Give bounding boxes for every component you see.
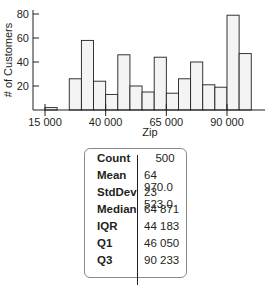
x-tick-label: 40 000: [89, 116, 123, 128]
x-tick-label: 90 000: [210, 116, 244, 128]
y-axis-ticks: 20406080: [17, 8, 39, 92]
histogram-bars: [45, 15, 251, 110]
stat-label: Q3: [97, 254, 112, 266]
y-tick-label: 60: [17, 32, 29, 44]
stat-label: Count: [97, 152, 130, 164]
stat-row-mean: Mean 64 970.0: [85, 169, 188, 186]
y-axis-label: # of Customers: [2, 22, 14, 97]
stat-label: Mean: [97, 169, 126, 181]
histogram-bar: [227, 15, 239, 110]
stat-value: 44 183: [144, 220, 179, 232]
y-tick-label: 20: [17, 80, 29, 92]
stat-label: Q1: [97, 237, 112, 249]
summary-statistics-table: Count 500 Mean 64 970.0 StdDev 23 523.0 …: [84, 148, 187, 278]
histogram-bar: [142, 92, 154, 110]
stat-row-iqr: IQR 44 183: [85, 220, 188, 237]
stat-value: 64 871: [144, 203, 179, 215]
y-tick-label: 80: [17, 8, 29, 20]
stat-label: IQR: [97, 220, 117, 232]
histogram-bar: [203, 85, 215, 110]
histogram-bar: [94, 81, 106, 110]
stat-row-q1: Q1 46 050: [85, 237, 188, 254]
stat-row-count: Count 500: [85, 152, 188, 169]
histogram-bar: [178, 79, 190, 110]
histogram-chart: 20406080 15 00040 00065 00090 000 # of C…: [0, 0, 271, 140]
histogram-bar: [118, 55, 130, 110]
stat-row-median: Median 64 871: [85, 203, 188, 220]
stat-label: StdDev: [97, 186, 137, 198]
histogram-bar: [166, 93, 178, 110]
y-tick-label: 40: [17, 56, 29, 68]
stat-value: 46 050: [144, 237, 179, 249]
stat-value: 90 233: [144, 254, 179, 266]
stat-row-q3: Q3 90 233: [85, 254, 188, 271]
histogram-bar: [81, 40, 93, 110]
histogram-bar: [239, 54, 251, 110]
stat-value: 500: [142, 152, 188, 164]
histogram-bar: [215, 87, 227, 110]
histogram-bar: [106, 94, 118, 110]
histogram-bar: [154, 57, 166, 110]
histogram-bar: [191, 62, 203, 110]
x-axis-label: Zip: [142, 126, 157, 138]
x-tick-label: 15 000: [28, 116, 62, 128]
histogram-bar: [69, 79, 81, 110]
histogram-bar: [130, 86, 142, 110]
stat-label: Median: [97, 203, 137, 215]
stat-row-stddev: StdDev 23 523.0: [85, 186, 188, 203]
